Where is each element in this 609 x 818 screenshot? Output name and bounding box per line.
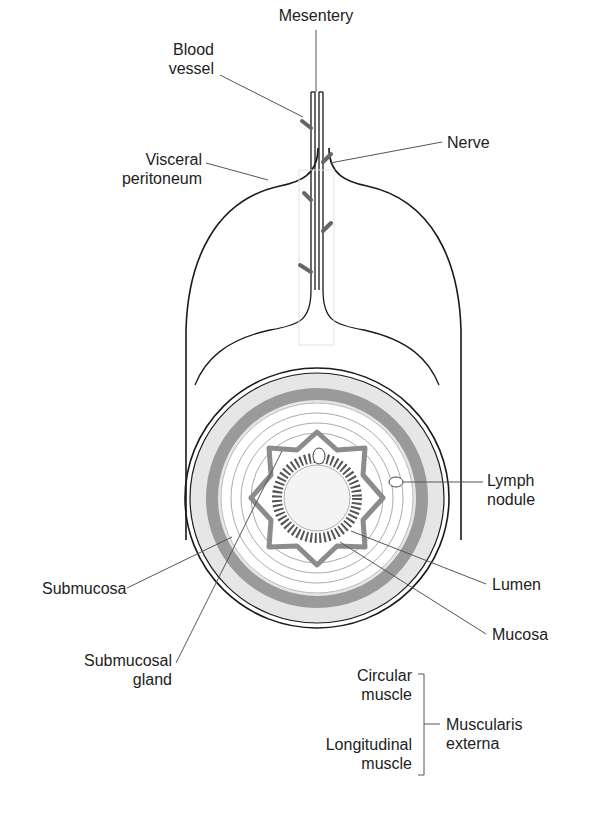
label-circular-muscle: Circularmuscle	[300, 666, 412, 704]
label-lumen: Lumen	[492, 575, 541, 594]
label-submucosa: Submucosa	[42, 579, 127, 598]
label-visceral-peritoneum: Visceralperitoneum	[100, 150, 202, 188]
label-nerve: Nerve	[447, 133, 490, 152]
label-longitudinal-muscle: Longitudinalmuscle	[280, 735, 412, 773]
label-mucosa: Mucosa	[492, 625, 548, 644]
mesentery-shape	[195, 92, 439, 385]
bowel-wall	[185, 368, 449, 628]
mesentery-fold	[299, 170, 334, 345]
label-submucosal-gland: Submucosalgland	[40, 651, 172, 689]
label-mesentery: Mesentery	[276, 6, 356, 25]
label-muscularis-externa: Muscularisexterna	[446, 715, 522, 753]
label-lymph-nodule: Lymphnodule	[487, 471, 535, 509]
label-blood-vessel: Bloodvessel	[140, 40, 214, 78]
